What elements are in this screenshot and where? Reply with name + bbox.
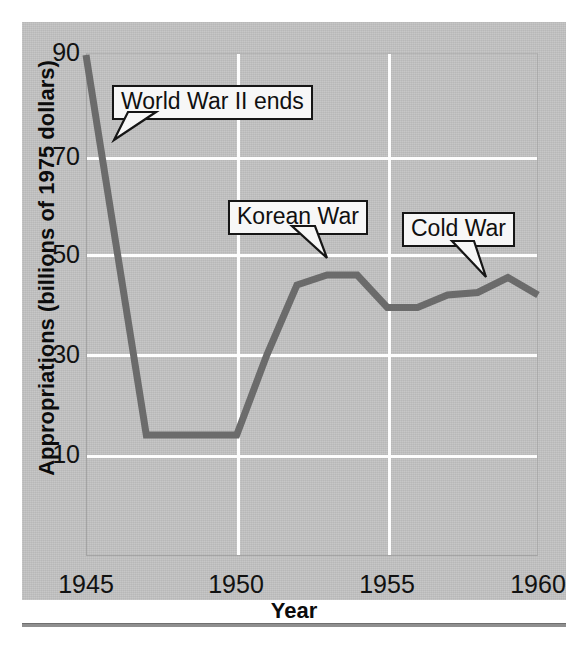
figure-bottom-rule bbox=[22, 623, 566, 627]
callout-korean-war: Korean War bbox=[228, 200, 368, 235]
x-tick-1945: 1945 bbox=[41, 570, 131, 599]
callout-cold-war: Cold War bbox=[402, 212, 515, 247]
figure-chart: Appropriations (billions of 1975 dollars… bbox=[0, 0, 588, 652]
x-tick-1955: 1955 bbox=[342, 570, 432, 599]
x-tick-1950: 1950 bbox=[191, 570, 281, 599]
x-tick-1960: 1960 bbox=[493, 570, 583, 599]
x-axis-title: Year bbox=[0, 598, 588, 624]
callout-world-war-ii: World War II ends bbox=[112, 85, 313, 120]
